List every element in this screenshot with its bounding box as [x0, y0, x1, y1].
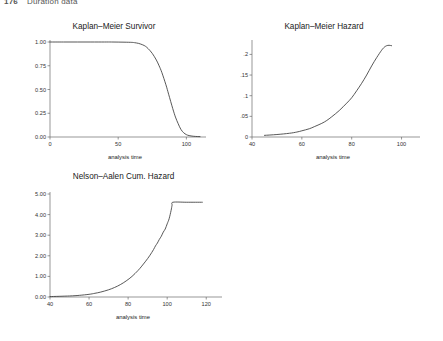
data-series-line [264, 45, 391, 135]
y-tick-label: 1.00 [16, 273, 46, 279]
page-header-title: Duration data [27, 0, 78, 6]
panel-kaplan-meier-hazard: Kaplan–Meier Hazard .2.15.1.050406080100… [224, 22, 424, 162]
y-tick-label: 0.00 [16, 134, 46, 140]
x-tick-label: 100 [163, 301, 172, 307]
x-tick-label: 100 [182, 141, 191, 147]
x-tick-label: 80 [349, 141, 355, 147]
y-tick-label: 4.00 [16, 212, 46, 218]
y-tick-label: 1.00 [16, 39, 46, 45]
x-axis-title: analysis time [116, 314, 150, 320]
y-tick-label: 0 [224, 134, 248, 140]
y-tick-label: .1 [224, 93, 248, 99]
chart-svg [224, 22, 443, 167]
y-tick-label: 2.00 [16, 253, 46, 259]
data-series-line [50, 202, 202, 297]
y-tick-label: 0.75 [16, 63, 46, 69]
y-tick-label: 0.25 [16, 110, 46, 116]
y-tick-label: 3.00 [16, 232, 46, 238]
y-tick-label: .15 [224, 72, 248, 78]
x-tick-label: 60 [299, 141, 305, 147]
x-tick-label: 100 [397, 141, 406, 147]
panel-kaplan-meier-survivor: Kaplan–Meier Survivor 1.000.750.500.250.… [16, 22, 212, 162]
x-tick-label: 40 [47, 301, 53, 307]
x-tick-label: 120 [202, 301, 211, 307]
y-tick-label: 5.00 [16, 191, 46, 197]
data-series-line [50, 42, 200, 137]
panel-nelson-aalen-cum-hazard: Nelson–Aalen Cum. Hazard 5.004.003.002.0… [16, 172, 231, 322]
x-tick-label: 40 [249, 141, 255, 147]
plot-area-survivor: 1.000.750.500.250.00050100analysis time [16, 22, 230, 167]
plot-area-cum-hazard: 5.004.003.002.001.000.00406080100120anal… [16, 172, 246, 327]
x-tick-label: 50 [115, 141, 121, 147]
y-tick-label: 0.50 [16, 87, 46, 93]
page-number: 176 [4, 0, 18, 6]
page-header: 176Duration data [4, 0, 78, 6]
x-tick-label: 80 [125, 301, 131, 307]
x-tick-label: 0 [48, 141, 51, 147]
x-axis-title: analysis time [108, 154, 142, 160]
y-tick-label: 0.00 [16, 294, 46, 300]
y-tick-label: .05 [224, 113, 248, 119]
x-axis-title: analysis time [316, 154, 350, 160]
y-tick-label: .2 [224, 51, 248, 57]
plot-area-hazard: .2.15.1.050406080100analysis time [224, 22, 443, 167]
x-tick-label: 60 [86, 301, 92, 307]
